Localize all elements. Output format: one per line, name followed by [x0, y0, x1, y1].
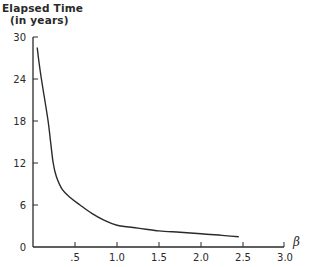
y-tick-label: 18: [13, 116, 26, 127]
x-tick-label: 2.5: [235, 252, 251, 263]
y-tick-label: 6: [20, 200, 26, 211]
y-tick-label: 0: [20, 242, 26, 253]
x-tick-label: .5: [70, 252, 80, 263]
y-tick-label: 24: [13, 74, 26, 85]
x-tick-label: 1.0: [109, 252, 125, 263]
y-tick-label: 12: [13, 158, 26, 169]
x-axis-label: β: [292, 235, 300, 249]
x-tick-label: 2.0: [193, 252, 209, 263]
x-axis-ticks: .51.01.52.02.53.0: [70, 242, 293, 263]
y-axis-ticks: 0612182430: [13, 32, 38, 253]
x-tick-label: 1.5: [151, 252, 167, 263]
axes: [33, 37, 284, 247]
y-tick-label: 30: [13, 32, 26, 43]
x-tick-label: 3.0: [277, 252, 293, 263]
chart-plot-area: 0612182430 .51.01.52.02.53.0 β: [0, 0, 309, 267]
data-curve: [37, 48, 239, 237]
